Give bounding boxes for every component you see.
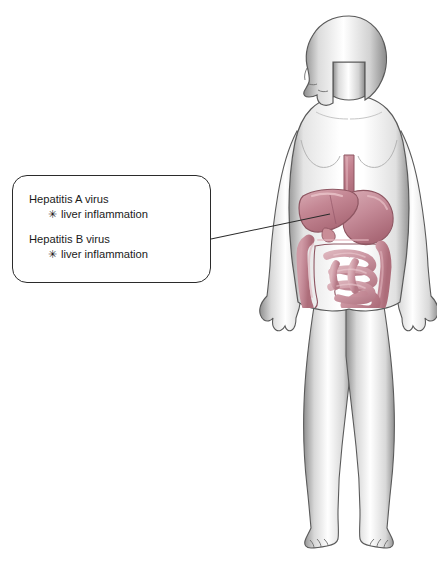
- large-intestine-body: [302, 240, 309, 307]
- hepatitis-a-term: Hepatitis A virus: [29, 192, 200, 207]
- hepatitis-a-symptom-label: liver inflammation: [61, 207, 148, 222]
- callout-box: Hepatitis A virus ✳ liver inflammation H…: [12, 175, 211, 283]
- asterisk-bullet-icon: ✳: [48, 207, 61, 222]
- diagram-root: Hepatitis A virus ✳ liver inflammation H…: [0, 0, 437, 581]
- right-leg: [346, 300, 394, 548]
- hepatitis-b-symptom: ✳ liver inflammation: [48, 247, 200, 262]
- hepatitis-b-symptom-label: liver inflammation: [61, 247, 148, 262]
- neck: [333, 62, 365, 100]
- left-leg: [304, 300, 352, 548]
- hepatitis-b-term: Hepatitis B virus: [29, 232, 200, 247]
- hepatitis-a-symptom: ✳ liver inflammation: [48, 207, 200, 222]
- entry-spacer: [29, 222, 200, 232]
- callout-content: Hepatitis A virus ✳ liver inflammation H…: [29, 192, 200, 262]
- asterisk-bullet-icon: ✳: [48, 247, 61, 262]
- body-diagram-svg: [0, 0, 437, 581]
